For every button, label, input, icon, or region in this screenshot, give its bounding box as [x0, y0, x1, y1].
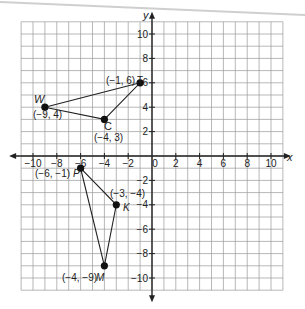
y-tick-label: −2: [137, 175, 149, 186]
y-tick-label: 10: [137, 29, 149, 40]
x-tick-label: −2: [122, 158, 134, 169]
coordinate-plane-figure: −10−8−6−4−20246810108642−2−4−6−8−10 x y …: [0, 0, 305, 309]
x-tick-label: 8: [244, 158, 250, 169]
y-tick-label: −6: [137, 224, 149, 235]
y-axis-arrow-up-icon: [149, 12, 155, 19]
label-M-name: M: [96, 272, 105, 283]
y-tick-label: −4: [137, 199, 149, 210]
label-C-coord: (−4, 3): [94, 132, 123, 143]
coordinate-grid: −10−8−6−4−20246810108642−2−4−6−8−10 x y …: [0, 0, 305, 309]
y-tick-label: −10: [131, 273, 148, 284]
y-axis-label: y: [142, 9, 150, 21]
label-K-coord: (−3, −4): [110, 188, 145, 199]
y-tick-label: 2: [142, 126, 148, 137]
vertex-point-K: [113, 201, 120, 208]
y-tick-label: 8: [142, 53, 148, 64]
label-P-name: P: [73, 168, 80, 179]
label-K-name: K: [123, 202, 131, 213]
label-W-coord: (−9, 4): [33, 109, 62, 120]
axes: [9, 12, 291, 302]
x-tick-label: 6: [221, 158, 227, 169]
x-tick-label: 10: [265, 158, 277, 169]
y-axis-arrow-down-icon: [149, 295, 155, 302]
x-tick-label: 0: [152, 158, 158, 169]
x-axis-label: x: [286, 151, 293, 163]
label-W-name: W: [34, 93, 46, 105]
label-M-coord: (−4, −9): [62, 272, 97, 283]
label-C-name: C: [104, 120, 112, 132]
x-tick-label: 2: [173, 158, 179, 169]
x-tick-label: −4: [99, 158, 111, 169]
y-tick-label: 4: [142, 102, 148, 113]
label-P-coord: (−6, −1): [35, 168, 70, 179]
x-tick-label: 4: [197, 158, 203, 169]
label-T-coord: (−1, 6): [106, 75, 135, 86]
x-axis-arrow-left-icon: [9, 153, 16, 159]
y-tick-label: −8: [137, 248, 149, 259]
vertex-point-M: [101, 262, 108, 269]
label-T-name: T: [137, 75, 143, 86]
